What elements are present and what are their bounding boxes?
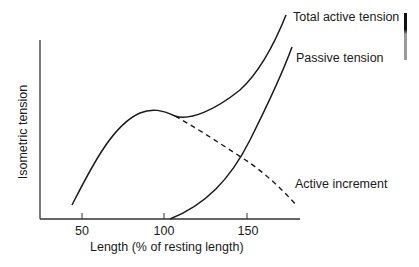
x-tick-label-50: 50 xyxy=(75,224,89,238)
length-tension-diagram: Total active tension Passive tension Act… xyxy=(0,0,419,267)
total-active-tension-label: Total active tension xyxy=(293,10,399,24)
active-increment-label: Active increment xyxy=(295,177,387,191)
x-tick-label-100: 100 xyxy=(154,224,175,238)
total-active-tension-curve xyxy=(72,15,286,205)
passive-tension-label: Passive tension xyxy=(296,51,384,65)
x-tick-label-150: 150 xyxy=(238,224,259,238)
passive-tension-curve xyxy=(170,47,292,219)
edge-bar xyxy=(404,13,407,60)
active-increment-curve xyxy=(175,116,296,205)
x-axis-label: Length (% of resting length) xyxy=(90,240,244,254)
plot-area xyxy=(0,0,419,267)
y-axis-label: Isometric tension xyxy=(16,82,30,182)
